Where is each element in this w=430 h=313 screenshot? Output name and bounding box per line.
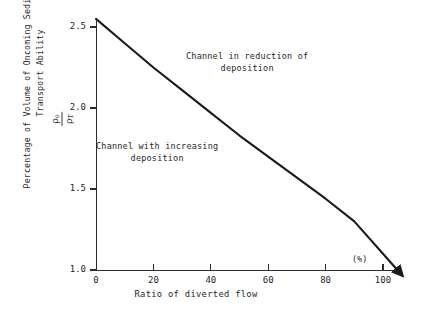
- annotation-upper-region: Channel in reduction of deposition: [186, 50, 308, 74]
- x-axis-title: Ratio of diverted flow: [96, 289, 296, 299]
- annotation-lower-line-2: deposition: [96, 152, 218, 164]
- annotation-lower-line-1: Channel with increasing: [96, 140, 218, 152]
- annotation-upper-line-1: Channel in reduction of: [186, 50, 308, 62]
- annotation-lower-region: Channel with increasing deposition: [96, 140, 218, 164]
- annotation-upper-line-2: deposition: [186, 62, 308, 74]
- chart-figure: Percentage of Volume of Oncoming Sedimen…: [0, 0, 430, 313]
- x-axis-unit-label: (%): [352, 254, 367, 264]
